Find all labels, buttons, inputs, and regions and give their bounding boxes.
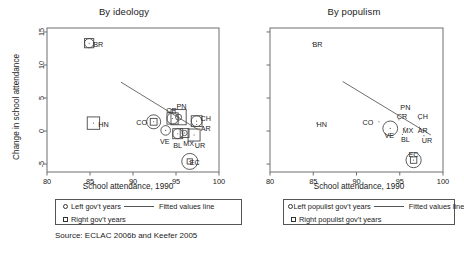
- point-label-co: CO: [136, 118, 147, 127]
- point-label-ur: UR: [195, 141, 205, 150]
- point-label-br: BR: [312, 40, 322, 49]
- data-point-br: BR: [312, 40, 323, 49]
- y-tick-label: 15: [37, 28, 46, 36]
- legend-row-left-1: Left gov't years Fitted values line: [56, 200, 241, 213]
- x-axis-title-right: School attendance, 1990: [259, 182, 459, 191]
- point-label-ur: UR: [422, 136, 432, 145]
- source-note: Source: ECLAC 2006b and Keefer 2005: [55, 231, 197, 240]
- data-point-ec: EC: [182, 153, 200, 169]
- data-point-co: CO: [363, 118, 380, 127]
- legend-right: Left populist gov't years Fitted values …: [283, 199, 455, 225]
- point-label-pn: PN: [400, 103, 410, 112]
- point-label-ec: EC: [409, 150, 419, 159]
- point-label-hn: HN: [98, 120, 108, 129]
- point-label-ve: VE: [160, 137, 170, 146]
- legend-row-right-2: Right populist gov't years: [284, 213, 454, 226]
- data-point-br: BR: [85, 39, 104, 49]
- data-point-bl: BL: [173, 129, 183, 151]
- square-marker-icon: [288, 217, 299, 222]
- data-point-ve: VE: [160, 126, 171, 146]
- fitted-values-line: [121, 82, 198, 130]
- point-label-bl: BL: [401, 135, 410, 144]
- point-label-ve: VE: [384, 131, 394, 140]
- scatter-plot-left: 80859095100-5051015BRHNCOVECRPNBLMXCHARU…: [0, 0, 230, 200]
- x-axis-title-left: School attendance, 1990: [28, 182, 228, 191]
- point-label-ch: CH: [417, 112, 427, 121]
- point-label-br: BR: [93, 40, 103, 49]
- point-label-cr: CR: [166, 106, 176, 115]
- point-label-bl: BL: [173, 141, 182, 150]
- legend-label-left-gov: Left gov't years: [71, 202, 121, 211]
- legend-label-fitted-right: Fitted values line: [409, 202, 464, 211]
- line-swatch-icon: [124, 206, 154, 207]
- data-point-ec: EC: [406, 150, 421, 168]
- square-marker-icon: [60, 217, 71, 222]
- point-label-mx: MX: [403, 126, 414, 135]
- data-point-co: CO: [136, 115, 160, 129]
- data-point-mx: MX: [180, 129, 194, 148]
- point-label-hn: HN: [317, 120, 327, 129]
- panel-by-ideology: By ideology 80859095100-5051015BRHNCOVEC…: [0, 0, 230, 200]
- scatter-plot-right: 80859095100BRHNCOVECRPNBLMXCHARUREC: [229, 0, 459, 200]
- y-tick-label: -5: [37, 161, 46, 168]
- legend-label-right-populist: Right populist gov't years: [299, 215, 381, 224]
- y-tick-label: 10: [37, 61, 46, 69]
- point-label-ec: EC: [190, 158, 200, 167]
- line-swatch-icon: [374, 206, 404, 207]
- point-label-ar: AR: [418, 126, 428, 135]
- data-point-cr: CR: [397, 112, 407, 121]
- legend-label-fitted-left: Fitted values line: [159, 202, 214, 211]
- point-label-mx: MX: [183, 139, 194, 148]
- point-label-cr: CR: [397, 112, 407, 121]
- data-point-ve: VE: [383, 121, 398, 140]
- data-point-ar: AR: [196, 124, 211, 133]
- data-point-ch: CH: [417, 112, 427, 121]
- y-tick-label: 0: [37, 129, 46, 133]
- y-axis-title: Change in school attendance: [12, 54, 21, 160]
- legend-row-left-2: Right gov't years: [56, 213, 241, 226]
- point-label-ch: CH: [200, 114, 210, 123]
- legend-fitted-line-right: Fitted values line: [371, 202, 464, 211]
- data-point-ar: AR: [418, 126, 428, 135]
- data-point-hn: HN: [87, 117, 108, 129]
- data-point-mx: MX: [403, 126, 414, 135]
- data-point-hn: HN: [316, 120, 327, 129]
- point-label-co: CO: [363, 118, 374, 127]
- legend-fitted-line-left: Fitted values line: [121, 202, 214, 211]
- legend-left: Left gov't years Fitted values line Righ…: [55, 199, 242, 225]
- point-label-pn: PN: [177, 102, 187, 111]
- point-label-ar: AR: [201, 124, 211, 133]
- panel-by-populism: By populism 80859095100BRHNCOVECRPNBLMXC…: [229, 0, 459, 200]
- data-point-ur: UR: [422, 135, 432, 145]
- y-tick-label: 5: [37, 96, 46, 100]
- legend-label-right-gov: Right gov't years: [71, 215, 126, 224]
- circle-marker-icon: [60, 204, 71, 209]
- legend-label-left-populist: Left populist gov't years: [293, 202, 370, 211]
- legend-row-right-1: Left populist gov't years Fitted values …: [284, 200, 454, 213]
